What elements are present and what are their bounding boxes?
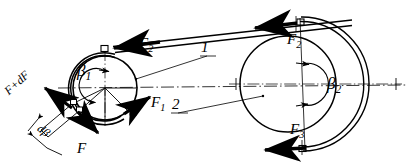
- right-pulley-horizontal-axis: [229, 78, 402, 90]
- callout-2-label: 2: [172, 97, 180, 112]
- f2-left-label: F2: [139, 36, 153, 54]
- diagram-canvas: [0, 0, 406, 167]
- f-label: F: [77, 141, 86, 156]
- beta2-wrap-arc: [296, 63, 328, 106]
- belt-drive-figure: β1 F2 F1 F2 F3 β2 1 2 F+dF dβ F: [0, 0, 406, 167]
- beta1-label: β1: [77, 62, 91, 83]
- left-pulley-element-radii: [74, 88, 136, 120]
- callout-2-leader: [171, 95, 264, 113]
- f1-tension-arrow: [124, 97, 150, 114]
- f3-tension-arrow: [265, 148, 306, 150]
- callout-1-label: 1: [201, 40, 209, 55]
- f1-label: F1: [151, 95, 165, 113]
- beta2-label: β2: [327, 75, 341, 96]
- f3-label: F3: [290, 122, 304, 140]
- callout-1-leader: [135, 56, 216, 80]
- f2-right-label: F2: [287, 32, 301, 50]
